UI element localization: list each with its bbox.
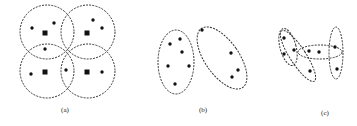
data-point — [308, 69, 311, 72]
data-point — [166, 64, 169, 67]
data-point — [230, 75, 233, 78]
data-point — [229, 51, 232, 54]
centroid-square — [85, 31, 90, 36]
data-point — [187, 64, 190, 67]
data-point — [333, 45, 336, 48]
diagram-canvas: (a) (b) (c) — [0, 0, 357, 126]
panel-b-label: (b) — [199, 106, 208, 114]
data-point — [292, 48, 295, 51]
data-point — [52, 21, 55, 24]
panel-a-overlapping-circles — [20, 5, 115, 98]
data-point — [64, 68, 67, 71]
data-point — [173, 82, 176, 85]
data-point — [43, 47, 46, 50]
data-point — [100, 70, 103, 73]
centroid-square — [43, 70, 48, 75]
cluster-ellipse — [275, 26, 321, 85]
panel-c-overlapping-ellipses — [275, 26, 343, 85]
data-point — [30, 26, 33, 29]
panel-b-two-ellipse-clusters — [158, 19, 257, 97]
cluster-diagram: (a) (b) (c) — [0, 0, 357, 126]
data-point — [178, 37, 181, 40]
data-point — [236, 68, 239, 71]
data-point — [100, 26, 103, 29]
data-point — [180, 50, 183, 53]
data-point — [282, 36, 285, 39]
data-point — [317, 50, 320, 53]
data-point — [307, 49, 310, 52]
cluster-ellipse — [187, 19, 256, 97]
data-point — [200, 28, 203, 31]
centroid-square — [85, 70, 90, 75]
panel-a-label: (a) — [61, 106, 69, 114]
data-point — [282, 52, 285, 55]
cluster-ellipse — [329, 27, 343, 79]
panel-c-label: (c) — [321, 109, 329, 117]
data-point — [335, 67, 338, 70]
data-point — [168, 42, 171, 45]
data-point — [29, 72, 32, 75]
centroid-square — [43, 31, 48, 36]
data-point — [91, 18, 94, 21]
